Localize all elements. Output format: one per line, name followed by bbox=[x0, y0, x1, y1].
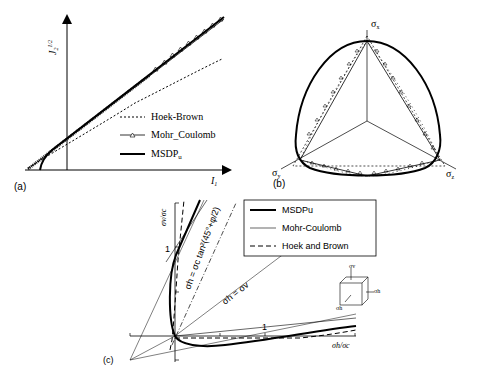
c-legend: MSDPu Mohr-Coulomb Hoek and Brown bbox=[244, 200, 376, 256]
a-y-axis-label: J21/2 bbox=[47, 40, 59, 55]
a-legend-msdpu: MSDPu bbox=[151, 148, 182, 161]
a-legend-hoek-brown: Hoek-Brown bbox=[151, 111, 203, 122]
c-cube-label-top: σv bbox=[349, 263, 355, 269]
a-legend-mohr-coulomb: Mohr_Coulomb bbox=[151, 129, 215, 140]
c-x-axis-label: σh/σc bbox=[332, 341, 350, 350]
panel-c: 1 1 σv/σc σh/σc σh = σc tan²(45°+φ/2) σh… bbox=[103, 200, 380, 365]
b-mohr-coulomb-curve bbox=[300, 41, 440, 176]
c-cube-label-right: σh bbox=[374, 288, 380, 294]
a-mohr-coulomb-line bbox=[28, 19, 224, 169]
c-cube-label-front: σh bbox=[336, 305, 342, 311]
b-hoek-brown-curve bbox=[293, 36, 445, 166]
b-panel-label: (b) bbox=[273, 178, 285, 189]
c-legend-mohr-coulomb: Mohr-Coulomb bbox=[282, 223, 342, 233]
panel-a: J21/2 I1 Hoek-Brown Mohr_Coulomb MSDPu (… bbox=[14, 14, 232, 192]
c-legend-hoek-brown: Hoek and Brown bbox=[282, 241, 349, 251]
a-x-arrow-icon bbox=[222, 165, 232, 175]
a-panel-label: (a) bbox=[14, 181, 26, 192]
b-axis-sigma-z: σz bbox=[446, 168, 454, 180]
panel-b: σx σy σz (b) bbox=[272, 18, 456, 189]
a-y-arrow-icon bbox=[62, 14, 72, 24]
b-axis-sigma-x: σx bbox=[371, 18, 379, 30]
c-legend-msdpu: MSDPu bbox=[282, 205, 313, 215]
a-legend: Hoek-Brown Mohr_Coulomb MSDPu bbox=[120, 111, 215, 161]
b-msdpu-curve bbox=[296, 41, 441, 176]
c-stress-cube-icon bbox=[340, 268, 374, 305]
c-panel-label: (c) bbox=[103, 355, 114, 365]
c-y-tick-1: 1 bbox=[165, 244, 170, 254]
figure: J21/2 I1 Hoek-Brown Mohr_Coulomb MSDPu (… bbox=[0, 0, 477, 390]
a-x-axis-label: I1 bbox=[210, 175, 217, 187]
c-annotation-equal: σh = σv bbox=[220, 279, 251, 306]
c-y-axis-label: σv/σc bbox=[159, 208, 168, 226]
